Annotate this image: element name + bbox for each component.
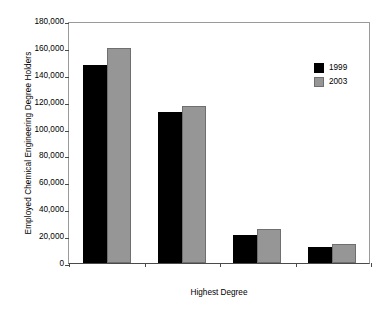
bar-chart-figure: Employed Chemical Engineering Degree Hol…	[0, 0, 386, 311]
bar-master-s-2003	[257, 229, 281, 263]
y-axis-tick-label: 0	[20, 260, 64, 268]
x-tick-mark	[371, 263, 372, 267]
bar-group	[219, 23, 294, 263]
bar-group	[69, 23, 144, 263]
plot-inner: 19992003	[69, 23, 369, 263]
x-tick-mark	[145, 263, 146, 267]
y-axis-tick-label: 80,000	[20, 152, 64, 160]
y-axis-tick-label: 160,000	[20, 45, 64, 53]
bar-bachelor-s-1999	[158, 112, 182, 263]
x-tick-mark	[69, 263, 70, 267]
y-axis-tick-label: 60,000	[20, 179, 64, 187]
bar-master-s-1999	[233, 235, 257, 263]
y-axis-tick-label: 180,000	[20, 18, 64, 26]
y-axis-tick-labels: 020,00040,00060,00080,000100,000120,0001…	[20, 0, 64, 311]
legend-item-2003: 2003	[314, 77, 347, 87]
plot-area: 19992003	[68, 22, 370, 264]
bar-phd-2003	[332, 244, 356, 263]
bar-group	[294, 23, 369, 263]
bar-total-2003	[107, 48, 131, 263]
legend-swatch-icon	[314, 77, 324, 87]
bar-bachelor-s-2003	[182, 106, 206, 263]
x-tick-mark	[296, 263, 297, 267]
x-tick-mark	[220, 263, 221, 267]
legend-label: 1999	[329, 63, 347, 73]
bar-total-1999	[83, 65, 107, 263]
chart-legend: 19992003	[314, 63, 347, 87]
y-axis-tick-label: 140,000	[20, 72, 64, 80]
y-axis-tick-label: 100,000	[20, 126, 64, 134]
x-axis-title: Highest Degree	[68, 288, 370, 298]
y-axis-tick-label: 20,000	[20, 233, 64, 241]
legend-item-1999: 1999	[314, 63, 347, 73]
legend-swatch-icon	[314, 63, 324, 73]
bar-group	[144, 23, 219, 263]
y-axis-tick-label: 120,000	[20, 99, 64, 107]
bar-groups	[69, 23, 369, 263]
legend-label: 2003	[329, 77, 347, 87]
y-axis-tick-label: 40,000	[20, 206, 64, 214]
bar-phd-1999	[308, 247, 332, 263]
